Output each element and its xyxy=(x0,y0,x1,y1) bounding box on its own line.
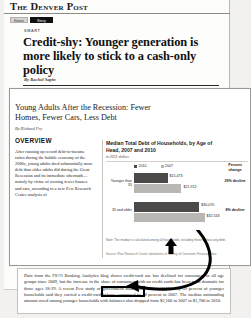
chart-subtitle: in 2011 dollars xyxy=(106,155,129,159)
cursor-pointer-icon xyxy=(164,238,178,254)
breadcrumb[interactable]: Home Story xyxy=(10,17,53,23)
masthead-title: The Denver Post xyxy=(10,1,88,12)
legend-label-2010: 2010 xyxy=(139,164,147,168)
category-label-older: 35 and older xyxy=(106,208,132,212)
bar-value-older-2010: $30,070 xyxy=(201,203,214,207)
nav-item-home[interactable]: Home xyxy=(10,17,28,23)
bar-group-younger: Younger than 35 $15,473 $21,912 29% decl… xyxy=(106,172,248,197)
legend-swatch-2007 xyxy=(161,165,164,168)
bar-younger-2010 xyxy=(134,173,168,183)
article-headline: Credit-shy: Younger generation is more l… xyxy=(23,35,219,78)
legend-label-2007: 2007 xyxy=(165,164,173,168)
bar-value-younger-2007: $21,912 xyxy=(183,185,196,189)
headline-divider xyxy=(23,85,219,86)
article-byline: By Rachel Sapin xyxy=(24,77,56,82)
chart-title: Median Total Debt of Households, by Age … xyxy=(106,140,218,153)
chart-legend: 2010 2007 xyxy=(134,164,173,168)
legend-item-2007: 2007 xyxy=(161,164,174,168)
nav-item-story[interactable]: Story xyxy=(30,17,53,23)
screenshot-root: The Denver Post Home Story SMART Credit-… xyxy=(0,0,251,318)
overview-body: After running up record debt-to-income r… xyxy=(15,149,93,198)
selection-highlight-box xyxy=(101,286,145,297)
bar-older-2007 xyxy=(134,213,205,223)
category-label-younger: Younger than 35 xyxy=(106,179,132,188)
report-title: Young Adults After the Recession: Fewer … xyxy=(15,103,165,123)
bar-value-younger-2010: $15,473 xyxy=(170,174,183,178)
chart-divider xyxy=(106,161,248,162)
chart-plot-area: Younger than 35 $15,473 $21,912 29% decl… xyxy=(106,172,248,234)
legend-swatch-2010 xyxy=(134,165,137,168)
column-divider xyxy=(102,140,103,258)
bar-younger-2007 xyxy=(134,184,181,194)
bar-group-older: 35 and older $30,070 $32,543 8% decline xyxy=(106,201,248,226)
report-panel: Young Adults After the Recession: Fewer … xyxy=(9,88,251,266)
article-kicker: SMART xyxy=(24,29,41,33)
percent-change-header: Percent change xyxy=(223,163,247,172)
percent-change-older: 8% decline xyxy=(223,208,247,213)
masthead-divider xyxy=(4,13,230,14)
overview-heading: OVERVIEW xyxy=(15,137,52,144)
legend-item-2010: 2010 xyxy=(134,164,147,168)
bar-value-older-2007: $32,543 xyxy=(207,214,220,218)
report-byline: By Richard Fry xyxy=(15,126,42,131)
percent-change-younger: 29% decline xyxy=(223,179,247,184)
bar-older-2010 xyxy=(134,202,199,212)
